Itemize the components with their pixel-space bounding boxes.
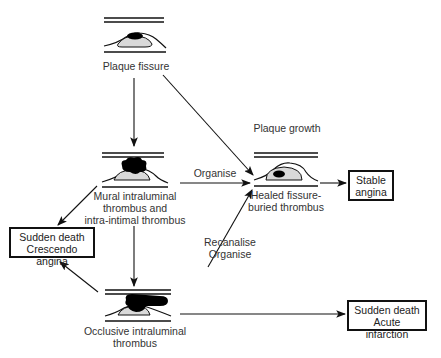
plaque-fissure-label: Plaque fissure [96, 60, 176, 72]
healed-line1: Healed fissure- [246, 189, 326, 201]
infarction-line2: Acute infarction [353, 316, 421, 340]
acute-infarction-box: Sudden death Acute infarction [347, 300, 427, 331]
plaque-growth-label: Plaque growth [250, 122, 324, 134]
recanalise-line1: Recanalise [200, 236, 260, 248]
mural-line3: intra-intimal thrombus [70, 214, 200, 226]
occlusive-thrombus-label: Occlusive intraluminal thrombus [75, 325, 195, 349]
stable-angina-box: Stable angina [348, 170, 394, 201]
infarction-line1: Sudden death [353, 304, 421, 316]
occlusive-thrombus-vessel-icon [105, 290, 171, 321]
healed-vessel-icon [254, 153, 318, 186]
recanalise-line2: Organise [200, 248, 260, 260]
stable-line2: angina [354, 186, 388, 198]
mural-line1: Mural intraluminal [70, 190, 200, 202]
mural-thrombus-label: Mural intraluminal thrombus and intra-in… [70, 190, 200, 226]
healed-line2: buried thrombus [246, 201, 326, 213]
organise-edge-label: Organise [190, 167, 240, 179]
crescendo-line1: Sudden death [15, 231, 89, 243]
occlusive-line2: thrombus [75, 337, 195, 349]
occlusive-line1: Occlusive intraluminal [75, 325, 195, 337]
healed-label: Healed fissure- buried thrombus [246, 189, 326, 213]
mural-line2: thrombus and [70, 202, 200, 214]
stable-line1: Stable [354, 174, 388, 186]
mural-thrombus-vessel-icon [102, 153, 168, 187]
crescendo-angina-box: Sudden death Crescendo angina [9, 227, 95, 258]
crescendo-line2: Crescendo angina [15, 243, 89, 267]
plaque-fissure-vessel-icon [104, 18, 166, 52]
recanalise-edge-label: Recanalise Organise [200, 236, 260, 260]
